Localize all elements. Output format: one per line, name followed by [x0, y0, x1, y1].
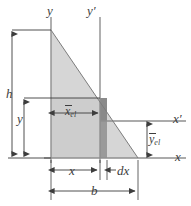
- label-y-prime-axis: y′: [87, 4, 96, 17]
- label-y-el: yel: [149, 132, 160, 147]
- label-x-el: xel: [65, 104, 76, 119]
- figure-canvas: [0, 0, 191, 206]
- x-el-subscript: el: [70, 110, 76, 119]
- overbar-y-el: [149, 133, 156, 134]
- label-x-prime-axis: x′: [173, 112, 182, 125]
- label-dim-b: b: [91, 184, 98, 197]
- label-dim-x: x: [69, 164, 75, 177]
- y-el-overbar-group: yel: [149, 132, 160, 147]
- x-el-overbar-group: xel: [65, 104, 76, 119]
- label-dim-y: y: [17, 112, 23, 125]
- label-dim-h: h: [6, 87, 13, 100]
- label-x-axis: x: [175, 150, 181, 163]
- centroid-triangle-figure: y y′ h y x′ x x dx b xel yel: [0, 0, 191, 206]
- y-el-subscript: el: [154, 138, 160, 147]
- strip-shadow: [100, 98, 107, 121]
- overbar-x-el: [65, 105, 72, 106]
- label-dim-dx: dx: [117, 164, 129, 177]
- label-y-axis: y: [47, 4, 53, 17]
